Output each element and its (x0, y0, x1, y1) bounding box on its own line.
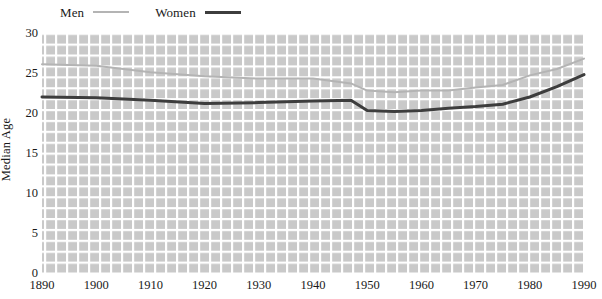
x-axis-tick-labels: 1890190019101920193019401950196019701980… (0, 279, 602, 299)
x-tick-1930: 1930 (236, 279, 282, 292)
x-tick-1960: 1960 (398, 279, 444, 292)
median-age-line-chart: Men Women Median Age 051015202530 189019… (0, 0, 602, 299)
x-tick-1970: 1970 (453, 279, 499, 292)
x-tick-1900: 1900 (73, 279, 119, 292)
x-tick-1920: 1920 (182, 279, 228, 292)
x-tick-1980: 1980 (507, 279, 553, 292)
x-tick-1950: 1950 (344, 279, 390, 292)
x-tick-1910: 1910 (127, 279, 173, 292)
x-tick-1890: 1890 (19, 279, 65, 292)
x-tick-1940: 1940 (290, 279, 336, 292)
x-tick-1990: 1990 (561, 279, 602, 292)
plot-area (0, 0, 602, 299)
